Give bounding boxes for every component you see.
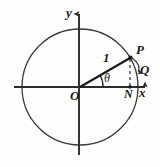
figure-canvas xyxy=(0,0,160,167)
angle-label: θ xyxy=(104,72,110,84)
point-p-marker xyxy=(128,55,132,59)
radius-length-label: 1 xyxy=(103,51,110,64)
y-axis-label: y xyxy=(66,6,72,19)
point-p-label: P xyxy=(136,43,144,56)
angle-arc xyxy=(100,75,103,87)
point-q-label: Q xyxy=(140,63,149,76)
x-axis-label: x xyxy=(139,86,146,99)
point-n-label: N xyxy=(124,88,133,100)
origin-label: O xyxy=(70,89,79,102)
unit-circle-figure: y x O P Q N 1 θ xyxy=(0,0,160,167)
